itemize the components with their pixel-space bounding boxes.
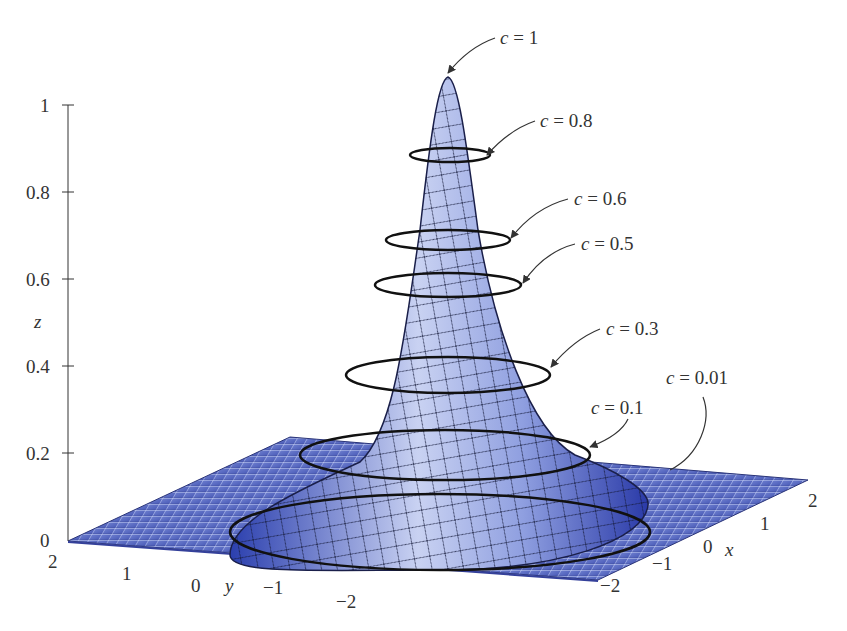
- z-tick-0.2: 0.2: [26, 443, 50, 464]
- z-axis: [62, 105, 74, 541]
- y-tick-0: 0: [191, 575, 201, 596]
- annotation-c03: c = 0.3: [606, 318, 658, 339]
- annotation-c05: c = 0.5: [581, 233, 633, 254]
- x-tick-neg2: −2: [600, 575, 620, 596]
- x-tick-1: 1: [760, 513, 770, 534]
- z-tick-0.6: 0.6: [26, 269, 50, 290]
- y-tick-neg1: −1: [263, 577, 283, 598]
- z-tick-0.4: 0.4: [26, 356, 50, 377]
- z-tick-0: 0: [40, 530, 50, 551]
- y-tick-2: 2: [48, 551, 58, 572]
- annotation-c001: c = 0.01: [666, 367, 728, 388]
- x-tick-0: 0: [703, 536, 713, 557]
- y-axis-label: y: [223, 575, 234, 596]
- surface-plot: 1 0.8 0.6 0.4 0.2 0 z 2 1 0 −1 −2 y 2 1 …: [0, 0, 847, 631]
- z-tick-0.8: 0.8: [26, 182, 50, 203]
- annotation-c06: c = 0.6: [574, 188, 626, 209]
- annotation-c08: c = 0.8: [540, 110, 592, 131]
- z-tick-1: 1: [40, 95, 50, 116]
- x-axis-label: x: [724, 539, 734, 560]
- y-tick-neg2: −2: [336, 591, 356, 612]
- gaussian-surface: [230, 77, 648, 571]
- y-tick-1: 1: [122, 563, 132, 584]
- x-tick-neg1: −1: [652, 553, 672, 574]
- annotation-c1: c = 1: [500, 27, 538, 48]
- annotation-c01: c = 0.1: [591, 397, 643, 418]
- z-axis-label: z: [33, 311, 42, 332]
- x-tick-2: 2: [808, 490, 818, 511]
